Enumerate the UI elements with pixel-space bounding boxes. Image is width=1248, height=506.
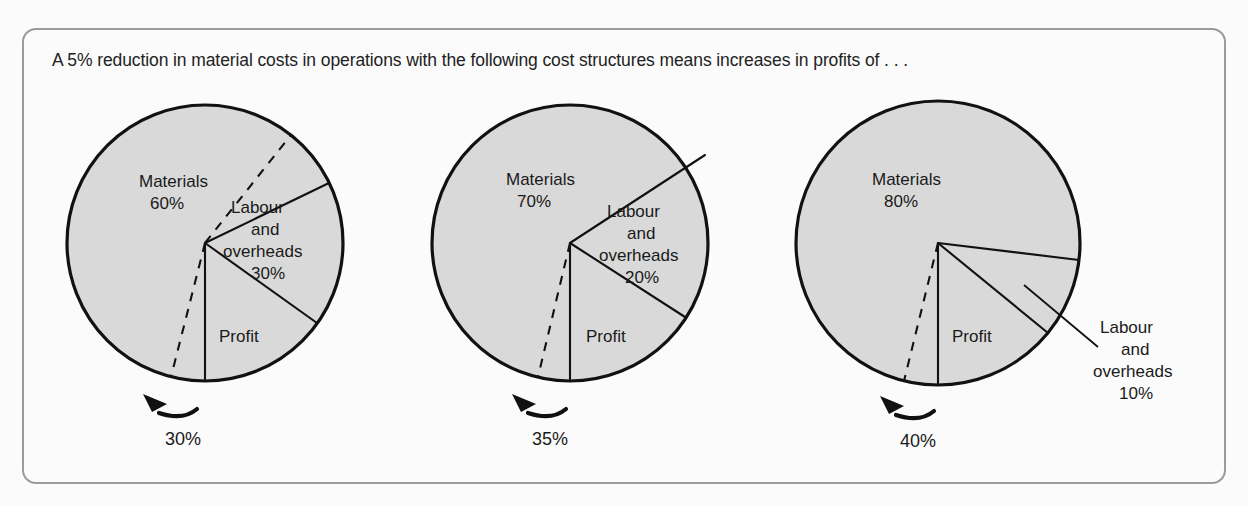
pie-3-materials-label: Materials — [872, 170, 941, 189]
pie-2-labour-line-2: and — [627, 224, 655, 243]
pie-1-profit-label: Profit — [219, 327, 259, 346]
pie-1-labour-line-2: and — [251, 220, 279, 239]
figure-caption: A 5% reduction in material costs in oper… — [52, 50, 1192, 71]
pie-2-labour-line-3: overheads — [599, 246, 678, 265]
pie-3-labour-line-1: Labour — [1100, 318, 1153, 337]
pie-1-materials-value: 60% — [150, 194, 184, 213]
pie-3-arrow-head-icon — [880, 396, 904, 414]
pie-1-arrow-head-icon — [143, 394, 167, 412]
pie-3-materials-value: 80% — [884, 192, 918, 211]
pie-1-materials-label: Materials — [139, 172, 208, 191]
pie-2-arrow-head-icon — [512, 394, 536, 412]
pie-3-profit-label: Profit — [952, 327, 992, 346]
pie-1-labour-value: 30% — [251, 264, 285, 283]
pie-chart-1: Materials 60% Labour and overheads 30% P… — [55, 95, 355, 455]
pie-3-result-value: 40% — [900, 431, 936, 451]
pie-2-materials-label: Materials — [506, 170, 575, 189]
pie-2-labour-line-1: Labour — [607, 202, 660, 221]
pie-3-arrow-tail — [896, 411, 934, 418]
pie-2-materials-value: 70% — [517, 192, 551, 211]
pie-1-labour-line-3: overheads — [223, 242, 302, 261]
figure-root: A 5% reduction in material costs in oper… — [0, 0, 1248, 506]
pie-2-profit-label: Profit — [586, 327, 626, 346]
pie-2-arrow-tail — [528, 409, 566, 416]
pie-chart-2: Materials 70% Labour and overheads 20% P… — [420, 95, 720, 455]
pie-1-labour-line-1: Labour — [231, 198, 284, 217]
pie-2-labour-value: 20% — [625, 268, 659, 287]
pie-1-result-value: 30% — [165, 429, 201, 449]
pie-1-arrow-tail — [159, 409, 197, 416]
pie-3-labour-line-2: and — [1121, 340, 1149, 359]
pie-chart-3: Materials 80% Profit Labour and overhead… — [780, 95, 1200, 455]
pie-3-labour-value: 10% — [1119, 384, 1153, 403]
pie-3-labour-line-3: overheads — [1093, 362, 1172, 381]
pie-2-result-value: 35% — [532, 429, 568, 449]
